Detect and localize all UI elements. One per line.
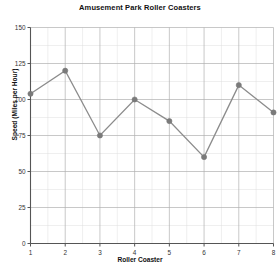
x-axis-tick-label: 6 [202, 249, 206, 256]
y-axis-tick-label: 150 [15, 24, 26, 31]
x-axis-tick-label: 5 [168, 249, 172, 256]
data-point-marker[interactable] [236, 83, 241, 88]
x-axis-tick-label: 4 [133, 249, 137, 256]
x-axis-label: Roller Coaster [0, 256, 280, 263]
y-axis-label: Speed (Miles per Hour) [11, 50, 18, 160]
x-axis-tick-label: 8 [272, 249, 276, 256]
data-point-marker[interactable] [271, 110, 276, 115]
x-axis-tick-label: 1 [29, 249, 33, 256]
line-chart-plot: 025507510012515012345678 [0, 0, 280, 267]
chart-container: Amusement Park Roller Coasters 025507510… [0, 0, 280, 267]
data-point-marker[interactable] [97, 133, 102, 138]
y-axis-tick-label: 75 [18, 132, 26, 139]
data-point-marker[interactable] [28, 91, 33, 96]
x-axis-tick-label: 7 [237, 249, 241, 256]
data-point-marker[interactable] [132, 97, 137, 102]
x-axis-tick-label: 3 [98, 249, 102, 256]
data-point-marker[interactable] [167, 119, 172, 124]
y-axis-tick-label: 25 [18, 204, 26, 211]
y-axis-tick-label: 50 [18, 168, 26, 175]
y-axis-tick-label: 0 [22, 240, 26, 247]
data-point-marker[interactable] [201, 155, 206, 160]
data-point-marker[interactable] [63, 68, 68, 73]
x-axis-tick-label: 2 [63, 249, 67, 256]
